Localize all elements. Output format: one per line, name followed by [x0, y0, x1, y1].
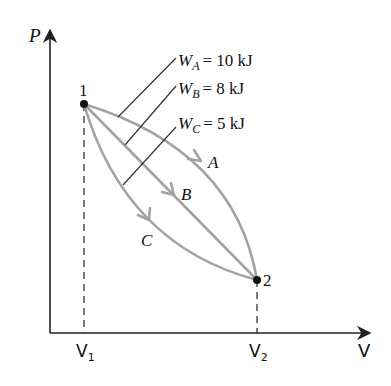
x-tick-v2: V2 — [249, 341, 268, 364]
leader-line-c — [123, 127, 176, 185]
path-label-b: B — [181, 185, 192, 204]
x-axis-label: V — [358, 340, 371, 361]
path-a-arrow-icon — [188, 150, 201, 161]
y-axis-label: P — [28, 25, 41, 46]
state-point-1 — [80, 100, 88, 108]
path-label-a: A — [207, 153, 219, 172]
pv-diagram: P V 1 2 V1 V2 A B C WA= 10 kJ WB= 8 kJ W… — [0, 0, 391, 386]
path-label-c: C — [141, 231, 153, 250]
work-label-a: WA= 10 kJ — [178, 51, 253, 73]
state-label-2: 2 — [263, 271, 272, 290]
x-tick-v1: V1 — [76, 341, 95, 364]
state-label-1: 1 — [79, 81, 88, 100]
work-label-b: WB= 8 kJ — [178, 79, 245, 101]
leader-line-a — [118, 58, 176, 117]
state-point-2 — [253, 276, 261, 284]
work-label-c: WC= 5 kJ — [178, 114, 245, 136]
